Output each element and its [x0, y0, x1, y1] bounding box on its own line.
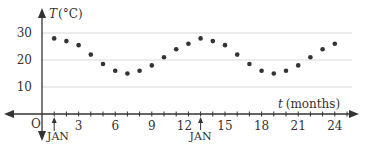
y-axis-down-arrow-icon: [38, 131, 46, 141]
jan-annotation-1: JAN: [46, 117, 69, 143]
svg-text:JAN: JAN: [189, 130, 212, 143]
origin-label: O: [31, 117, 41, 131]
svg-text:JAN: JAN: [46, 130, 69, 143]
jan-annotation-2: JAN: [189, 117, 212, 143]
data-point: [333, 42, 338, 47]
data-points: [52, 36, 337, 76]
data-point: [223, 43, 228, 48]
data-point: [64, 39, 69, 44]
data-point: [125, 71, 130, 76]
data-point: [211, 39, 216, 44]
grid-lines: [42, 33, 352, 87]
data-point: [308, 55, 313, 60]
x-tick-label: 24: [327, 119, 343, 133]
data-point: [137, 69, 142, 74]
data-point: [89, 52, 94, 57]
data-point: [101, 62, 106, 67]
x-tick-label: 21: [291, 119, 306, 133]
data-point: [198, 36, 203, 41]
y-axis-up-arrow-icon: [38, 8, 46, 18]
y-tick-label: 20: [17, 53, 32, 67]
data-point: [259, 69, 264, 74]
data-point: [296, 63, 301, 68]
data-point: [186, 42, 191, 47]
data-point: [235, 52, 240, 57]
data-point: [76, 43, 81, 48]
data-point: [150, 63, 155, 68]
data-point: [320, 47, 325, 52]
x-axis-label: t(months): [278, 97, 340, 111]
data-point: [162, 55, 167, 60]
y-tick-labels: 102030: [17, 26, 32, 94]
temperature-chart: 102030 3691215182124 T(°C) t(months) O J…: [0, 0, 377, 150]
y-tick-label: 30: [17, 26, 32, 40]
data-point: [284, 69, 289, 74]
x-tick-label: 15: [217, 119, 232, 133]
y-axis-label: T(°C): [49, 7, 83, 21]
data-point: [52, 36, 57, 41]
x-axis-left-arrow-icon: [4, 110, 14, 118]
jan-arrow-icon: [198, 117, 203, 123]
x-tick-label: 18: [254, 119, 269, 133]
jan-arrow-icon: [52, 117, 57, 123]
y-tick-label: 10: [17, 80, 32, 94]
data-point: [247, 62, 252, 67]
x-tick-label: 3: [75, 119, 83, 133]
x-tick-label: 6: [111, 119, 119, 133]
data-point: [272, 71, 277, 76]
x-tick-label: 9: [148, 119, 156, 133]
data-point: [174, 47, 179, 52]
data-point: [113, 69, 118, 74]
x-axis-right-arrow-icon: [349, 110, 359, 118]
